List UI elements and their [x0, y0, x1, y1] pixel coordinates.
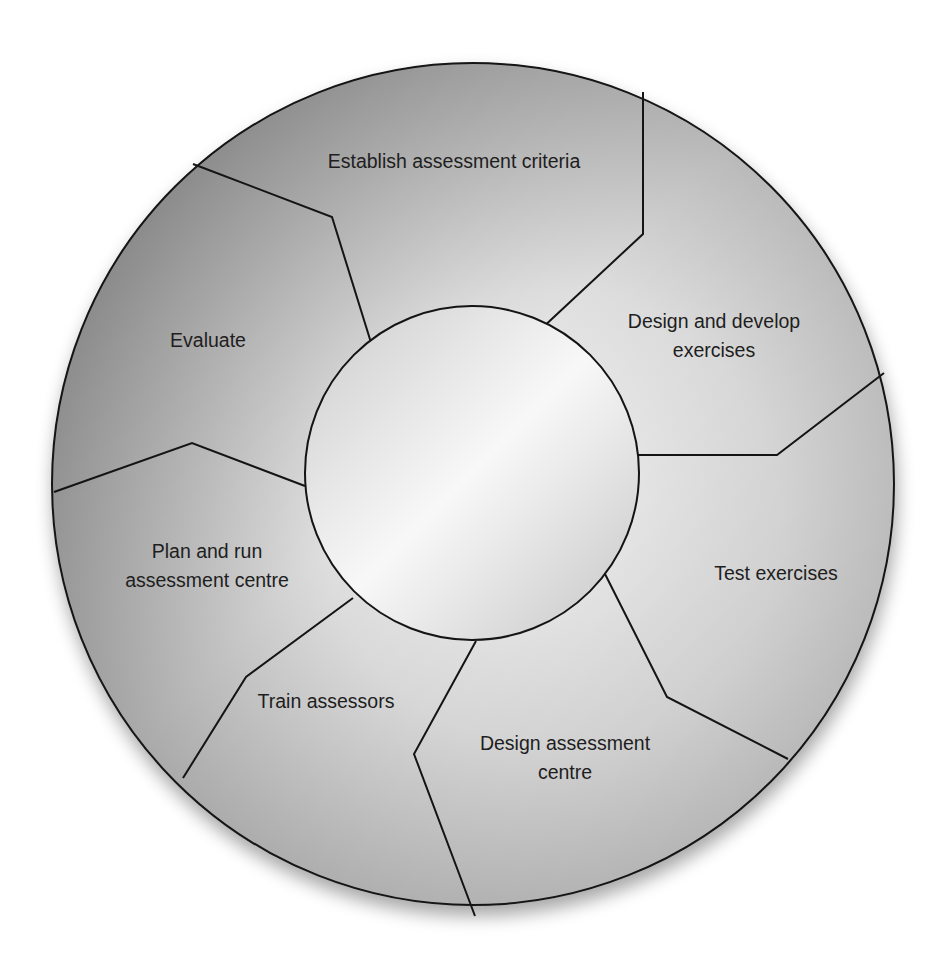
- segment-label-line: Train assessors: [258, 690, 395, 712]
- segment-label-line: exercises: [673, 339, 756, 361]
- segment-label-line: Evaluate: [170, 329, 246, 351]
- segment-label-line: assessment centre: [125, 569, 289, 591]
- segment-label-evaluate: Evaluate: [170, 329, 246, 351]
- center-hub-circle: [305, 306, 639, 640]
- segment-label-line: Establish assessment criteria: [328, 150, 581, 172]
- assessment-cycle-diagram: Establish assessment criteriaDesign and …: [0, 0, 949, 974]
- segment-label-line: Design assessment: [480, 732, 651, 754]
- segment-label-line: centre: [538, 761, 592, 783]
- segment-label-test-exercises: Test exercises: [714, 562, 838, 584]
- segment-label-train-assessors: Train assessors: [258, 690, 395, 712]
- segment-label-line: Test exercises: [714, 562, 838, 584]
- segment-label-establish-assessment-criteria: Establish assessment criteria: [328, 150, 581, 172]
- segment-label-line: Design and develop: [628, 310, 801, 332]
- segment-label-line: Plan and run: [152, 540, 263, 562]
